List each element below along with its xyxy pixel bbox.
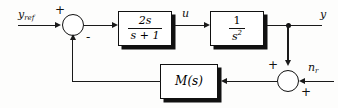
plant-denominator-exponent: 2	[238, 29, 242, 37]
controller-numerator: 2s	[136, 15, 155, 27]
controller-denominator: s + 1	[128, 28, 163, 42]
signal-label-reference: yref	[18, 8, 34, 21]
feedback-block: M(s)	[160, 64, 218, 99]
plant-block: 1 s2	[210, 11, 264, 46]
error-junction-sign-plus: +	[55, 4, 65, 16]
error-junction-sign-minus: -	[86, 31, 90, 43]
reference-subscript: ref	[24, 14, 34, 22]
noise-junction	[277, 70, 299, 92]
wire-feedback-return	[72, 81, 161, 82]
wire-noise-input	[302, 81, 334, 82]
arrowhead-noise-junction-top	[285, 60, 291, 66]
error-junction	[62, 14, 84, 36]
signal-label-noise: nr	[308, 61, 318, 74]
arrowhead-reference	[55, 22, 61, 28]
noise-subscript: r	[315, 67, 318, 75]
noise-junction-sign-top: +	[268, 59, 278, 71]
signal-label-control: u	[182, 7, 189, 20]
wire-noise-junction-to-feedback	[224, 81, 277, 82]
noise-junction-sign-right: +	[301, 86, 311, 98]
plant-numerator: 1	[231, 15, 244, 27]
wire-reference	[18, 25, 56, 26]
block-diagram: yref + - 2s s + 1 u 1 s2	[0, 0, 338, 108]
signal-label-output: y	[320, 8, 326, 21]
wire-output-to-noise-junction	[287, 25, 288, 63]
feedback-block-label: M(s)	[175, 75, 203, 88]
controller-block: 2s s + 1	[118, 11, 172, 46]
arrowhead-noise-input	[299, 78, 305, 84]
wire-plant-to-output	[267, 25, 322, 26]
wire-feedback-up	[72, 40, 73, 82]
arrowhead-error-junction-bottom	[70, 34, 76, 40]
arrowhead-feedback-input	[221, 78, 227, 84]
